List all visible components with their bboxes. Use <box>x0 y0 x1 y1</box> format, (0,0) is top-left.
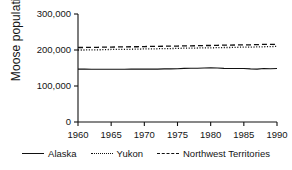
legend-item-yukon[interactable]: Yukon <box>91 148 143 159</box>
axes <box>78 14 277 122</box>
x-tick-label: 1990 <box>260 130 292 140</box>
y-tick-marks <box>74 14 78 122</box>
x-tick-label: 1965 <box>94 130 128 140</box>
x-tick-label: 1970 <box>127 130 161 140</box>
y-tick-label: 300,000 <box>37 9 71 19</box>
y-axis-tick-labels: 300,000 200,000 100,000 0 <box>14 0 71 170</box>
legend-label: Alaska <box>48 148 77 159</box>
chart-legend: Alaska Yukon Northwest Territories <box>0 148 292 159</box>
legend-item-alaska[interactable]: Alaska <box>22 148 77 159</box>
y-tick-label: 100,000 <box>37 81 71 91</box>
series-line-yukon <box>78 46 277 50</box>
x-tick-label: 1960 <box>61 130 95 140</box>
legend-item-northwest-territories[interactable]: Northwest Territories <box>157 148 270 159</box>
legend-line-dotted-icon <box>91 150 113 158</box>
series-line-northwest-territories <box>78 44 277 47</box>
x-tick-label: 1985 <box>227 130 261 140</box>
y-tick-label: 200,000 <box>37 45 71 55</box>
y-tick-label: 0 <box>66 117 71 127</box>
legend-label: Northwest Territories <box>183 148 270 159</box>
x-tick-label: 1980 <box>194 130 228 140</box>
legend-label: Yukon <box>117 148 143 159</box>
legend-line-dashed-icon <box>157 150 179 158</box>
x-tick-marks <box>78 122 277 126</box>
x-tick-label: 1975 <box>161 130 195 140</box>
series-line-alaska <box>78 68 277 69</box>
chart-figure: Moose population 300,000 200,000 100,000… <box>0 0 292 170</box>
legend-line-solid-icon <box>22 150 44 158</box>
data-series-group <box>78 44 277 69</box>
